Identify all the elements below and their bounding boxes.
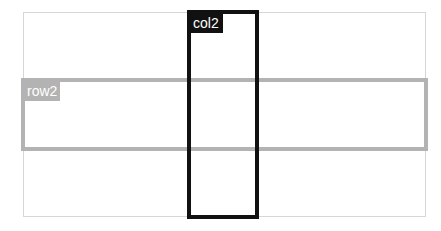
row-label: row2 (25, 82, 60, 101)
column-highlight: col2 (187, 10, 259, 219)
column-label: col2 (191, 14, 223, 33)
